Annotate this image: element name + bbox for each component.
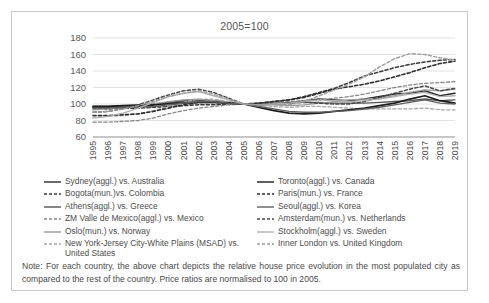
figure-note: Note: For each country, the above chart … [22,260,460,286]
legend-item: New York-Jersey City-White Plains (MSAD)… [44,238,257,258]
dashed-line-key-icon [257,217,274,221]
legend-item-label: Amsterdam(mun.) vs. Netherlands [278,213,464,223]
gridlines-group [93,38,455,137]
solid-line-key-icon [44,180,61,184]
y-tick-label: 60 [75,131,86,142]
legend-item: Sydney(aggl.) vs. Australia [44,176,257,188]
x-tick-label: 2003 [209,141,219,160]
legend-column-left: Sydney(aggl.) vs. AustraliaBogota(mun.)v… [44,176,257,258]
x-tick-label: 2004 [224,141,234,160]
legend-column-right: Toronto(aggl.) vs. CanadaParis(mun.) vs.… [257,176,464,258]
x-tick-label: 2014 [375,141,385,160]
dashed-line-key-icon [257,192,274,196]
x-tick-label: 2000 [163,141,173,160]
x-tick-label: 2006 [254,141,264,160]
x-tick-label: 2007 [269,141,279,160]
x-tick-label: 2011 [329,141,339,160]
x-tick-label: 2013 [360,141,370,160]
x-tick-label: 2019 [450,141,460,160]
y-tick-label: 180 [70,32,86,43]
x-tick-label: 2010 [314,141,324,160]
x-tick-label: 1999 [148,141,158,160]
chart-plot-area: 6080100120140160180 19951996199719981999… [0,0,489,180]
legend-item: Amsterdam(mun.) vs. Netherlands [257,213,464,225]
line-chart-svg: 6080100120140160180 19951996199719981999… [0,0,489,180]
legend-item: Bogota(mun.)vs. Colombia [44,188,257,200]
x-tick-label: 2009 [299,141,309,160]
x-tick-label: 2002 [194,141,204,160]
x-tick-label: 1996 [103,141,113,160]
x-tick-label: 2015 [390,141,400,160]
legend-item-label: Oslo(mun.) vs. Norway [65,226,257,236]
x-tick-label: 2008 [284,141,294,160]
solid-line-key-icon [44,205,61,209]
x-tick-label: 2005 [239,141,249,160]
x-tick-label: 2012 [344,141,354,160]
legend-item: Stockholm(aggl.) vs. Sweden [257,226,464,238]
x-tick-label: 1998 [133,141,143,160]
x-tick-label: 2016 [405,141,415,160]
legend-item-label: Paris(mun.) vs. France [278,188,464,198]
solid-line-key-icon [257,205,274,209]
solid-line-key-icon [44,230,61,234]
x-tick-label: 1997 [118,141,128,160]
chart-legend: Sydney(aggl.) vs. AustraliaBogota(mun.)v… [44,176,464,258]
y-tick-label: 120 [70,82,86,93]
legend-item-label: Bogota(mun.)vs. Colombia [65,188,257,198]
y-tick-label: 160 [70,49,86,60]
legend-item-label: New York-Jersey City-White Plains (MSAD)… [65,238,257,258]
legend-item: ZM Valle de Mexico(aggl.) vs. Mexico [44,213,257,225]
x-tick-label: 2018 [435,141,445,160]
data-series-group [93,54,455,122]
legend-item: Athens(aggl.) vs. Greece [44,201,257,213]
dashed-line-key-icon [44,192,61,196]
legend-item-label: Stockholm(aggl.) vs. Sweden [278,226,464,236]
legend-item: Toronto(aggl.) vs. Canada [257,176,464,188]
x-tick-label: 2001 [179,141,189,160]
legend-item-label: Athens(aggl.) vs. Greece [65,201,257,211]
legend-item: Seoul(aggl.) vs. Korea [257,201,464,213]
legend-item-label: Sydney(aggl.) vs. Australia [65,176,257,186]
y-axis-tick-labels: 6080100120140160180 [70,32,86,142]
legend-item-label: Inner London vs. United Kingdom [278,238,464,248]
dashed-line-key-icon [257,242,274,246]
x-tick-label: 2017 [420,141,430,160]
solid-line-key-icon [257,230,274,234]
legend-item-label: Seoul(aggl.) vs. Korea [278,201,464,211]
y-tick-label: 100 [70,98,86,109]
x-tick-label: 1995 [88,141,98,160]
legend-item: Oslo(mun.) vs. Norway [44,226,257,238]
x-axis-tick-labels: 1995199619971998199920002001200220032004… [88,141,460,160]
y-tick-label: 140 [70,65,86,76]
dashed-line-key-icon [44,242,61,246]
legend-item: Inner London vs. United Kingdom [257,238,464,250]
legend-item: Paris(mun.) vs. France [257,188,464,200]
legend-item-label: ZM Valle de Mexico(aggl.) vs. Mexico [65,213,257,223]
y-tick-label: 80 [75,115,86,126]
solid-line-key-icon [257,180,274,184]
figure-page: 2005=100 6080100120140160180 19951996199… [0,0,489,303]
legend-item-label: Toronto(aggl.) vs. Canada [278,176,464,186]
dashed-line-key-icon [44,217,61,221]
